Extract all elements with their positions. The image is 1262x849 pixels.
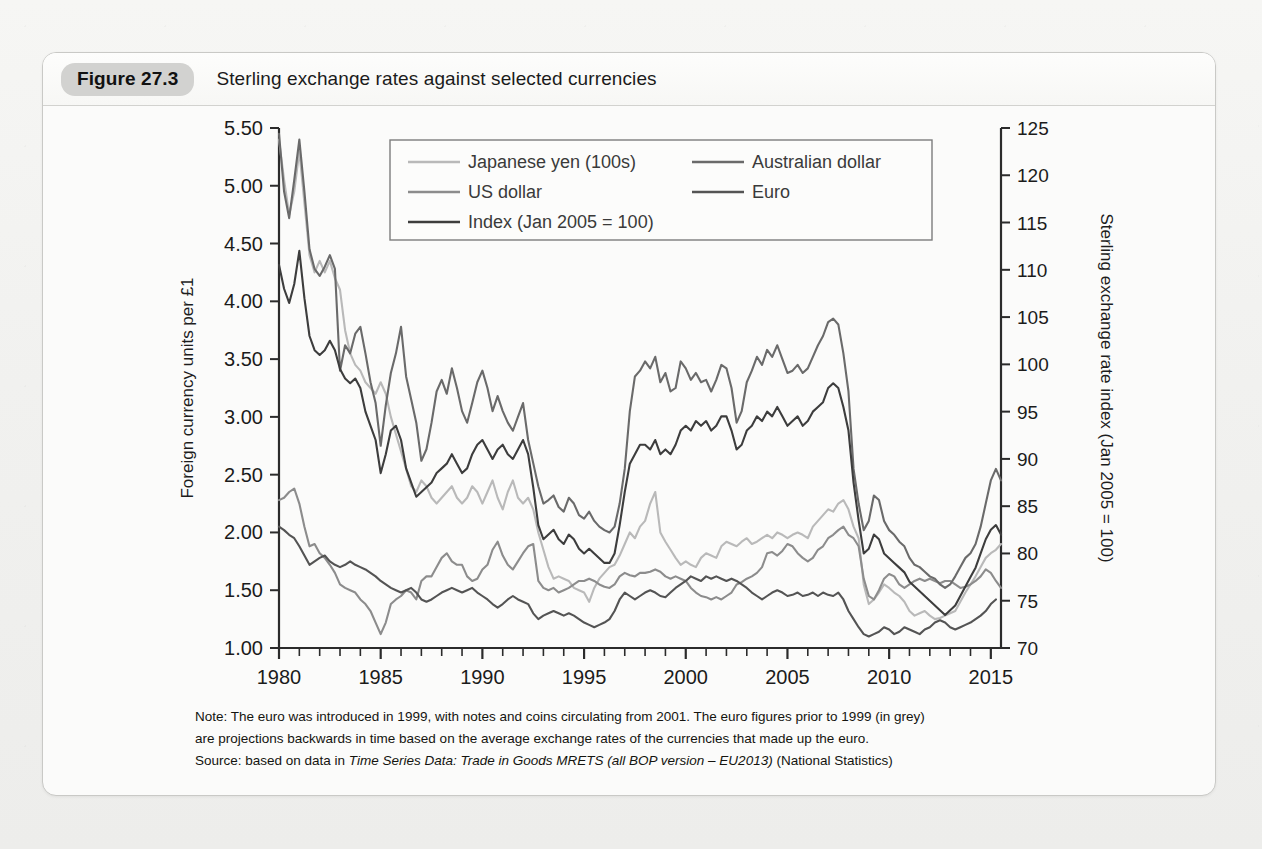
chart-area: 1.001.502.002.503.003.504.004.505.005.50…: [43, 106, 1215, 706]
y-tick-label-right: 95: [1017, 402, 1038, 423]
x-tick-label: 1995: [562, 666, 607, 688]
legend-label-us-dollar: US dollar: [468, 182, 542, 202]
source-prefix: Source: based on data in: [195, 753, 349, 768]
y-tick-label-left: 2.50: [224, 464, 263, 486]
y-tick-label-right: 115: [1017, 213, 1047, 234]
x-tick-label: 1990: [460, 666, 505, 688]
y-tick-label-right: 90: [1017, 449, 1038, 470]
y-tick-label-right: 85: [1017, 496, 1038, 517]
y-tick-label-left: 4.50: [224, 233, 263, 255]
figure-number-badge: Figure 27.3: [61, 63, 194, 96]
x-tick-label: 2005: [765, 666, 810, 688]
figure-header: Figure 27.3 Sterling exchange rates agai…: [43, 53, 1215, 106]
legend-label-japanese-yen-100s: Japanese yen (100s): [468, 152, 636, 172]
y-tick-label-left: 2.00: [224, 521, 263, 543]
legend-label-australian-dollar: Australian dollar: [752, 152, 881, 172]
x-tick-label: 2015: [969, 666, 1014, 688]
figure-body: 1.001.502.002.503.003.504.004.505.005.50…: [43, 106, 1215, 796]
source-line: Source: based on data in Time Series Dat…: [195, 750, 1135, 772]
figure-card: Figure 27.3 Sterling exchange rates agai…: [42, 52, 1216, 796]
x-tick-label: 2010: [867, 666, 912, 688]
x-tick-label: 1980: [257, 666, 302, 688]
exchange-rate-line-chart: 1.001.502.002.503.003.504.004.505.005.50…: [43, 106, 1215, 706]
y-tick-label-left: 1.00: [224, 637, 263, 659]
y-tick-label-left: 5.50: [224, 117, 263, 139]
y-tick-label-left: 3.00: [224, 406, 263, 428]
figure-title: Sterling exchange rates against selected…: [216, 68, 656, 90]
y-axis-left-title: Foreign currency units per £1: [178, 277, 197, 498]
legend-label-euro: Euro: [752, 182, 790, 202]
y-tick-label-left: 3.50: [224, 348, 263, 370]
note-line-1: Note: The euro was introduced in 1999, w…: [195, 706, 1135, 728]
legend-label-index-jan-2005-100: Index (Jan 2005 = 100): [468, 212, 654, 232]
x-tick-label: 1985: [358, 666, 403, 688]
note-line-2: are projections backwards in time based …: [195, 728, 1135, 750]
figure-notes: Note: The euro was introduced in 1999, w…: [195, 706, 1135, 772]
y-tick-label-right: 80: [1017, 543, 1038, 564]
y-tick-label-left: 4.00: [224, 290, 263, 312]
x-tick-label: 2000: [664, 666, 709, 688]
y-tick-label-right: 70: [1017, 638, 1038, 659]
y-tick-label-right: 120: [1017, 165, 1049, 186]
series-line-index-jan-2005-100: [279, 251, 1001, 615]
y-tick-label-left: 5.00: [224, 175, 263, 197]
source-title-italic: Time Series Data: Trade in Goods MRETS (…: [349, 753, 773, 768]
y-axis-right-title: Sterling exchange rate index (Jan 2005 =…: [1097, 213, 1116, 562]
y-tick-label-right: 110: [1017, 260, 1047, 281]
y-tick-label-right: 105: [1017, 307, 1049, 328]
source-suffix: (National Statistics): [773, 753, 893, 768]
y-tick-label-right: 75: [1017, 591, 1038, 612]
y-tick-label-right: 100: [1017, 354, 1049, 375]
y-tick-label-left: 1.50: [224, 579, 263, 601]
y-tick-label-right: 125: [1017, 118, 1049, 139]
legend-layer: Japanese yen (100s)US dollarIndex (Jan 2…: [390, 140, 932, 240]
